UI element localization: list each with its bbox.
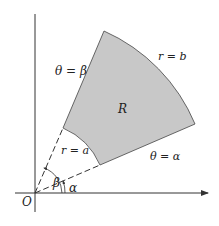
inner-arc-label: r = a [61, 144, 89, 157]
polar-region-diagram: R r = b r = a θ = β θ = α β α O [0, 0, 219, 226]
angle-arc-alpha [63, 181, 65, 193]
outer-arc-label: r = b [158, 50, 187, 63]
angle-beta-label: β [52, 176, 60, 190]
dashed-ray-alpha [35, 165, 100, 193]
upper-ray-label: θ = β [55, 64, 87, 78]
angle-alpha-label: α [69, 181, 77, 195]
origin-label: O [22, 195, 32, 209]
region-label: R [117, 102, 127, 116]
lower-ray-label: θ = α [150, 150, 181, 163]
